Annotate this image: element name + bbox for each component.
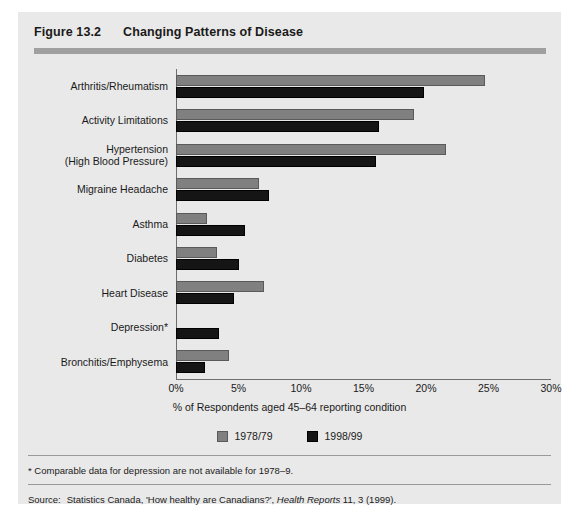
bar-group: [176, 178, 551, 201]
legend-label: 1978/79: [235, 430, 273, 442]
figure-panel: Figure 13.2Changing Patterns of Disease …: [18, 12, 561, 504]
source-label: Source:: [28, 494, 61, 505]
source-journal: Health Reports: [277, 494, 340, 505]
category-label-line: Activity Limitations: [82, 114, 168, 127]
figure-title-row: Figure 13.2Changing Patterns of Disease: [34, 22, 534, 42]
x-tick-label: 0%: [168, 382, 183, 394]
x-axis-tick-labels: 0%5%10%15%20%25%30%: [176, 382, 551, 398]
category-label: Asthma: [132, 218, 168, 231]
bar-1978-79-asthma: [176, 213, 207, 224]
bar-1998-99-depression: [176, 328, 219, 339]
legend-item: 1978/79: [217, 430, 273, 442]
category-label: Activity Limitations: [82, 114, 168, 127]
category-label-line: Hypertension: [65, 143, 168, 156]
source-text: Source:Statistics Canada, 'How healthy a…: [28, 494, 551, 505]
category-label-line: Arthritis/Rheumatism: [71, 80, 168, 93]
bar-1978-79-hypertension: [176, 144, 446, 155]
bar-group: [176, 350, 551, 373]
bar-1998-99-hypertension: [176, 156, 376, 167]
category-label: Depression*: [111, 321, 168, 334]
bar-1998-99-asthma: [176, 225, 245, 236]
footnote-divider: [28, 455, 551, 456]
x-tick-label: 20%: [415, 382, 436, 394]
source-divider: [28, 484, 551, 485]
bar-group: [176, 281, 551, 304]
source-after: 11, 3 (1999).: [340, 494, 396, 505]
figure-number: Figure 13.2: [34, 25, 101, 39]
bar-1998-99-bronchitis-emphysema: [176, 362, 205, 373]
bar-1978-79-bronchitis-emphysema: [176, 350, 229, 361]
category-label: Migraine Headache: [77, 183, 168, 196]
chart-legend: 1978/791998/99: [18, 430, 561, 442]
bar-group: [176, 144, 551, 167]
bar-1978-79-heart-disease: [176, 281, 264, 292]
bar-1998-99-arthritis-rheumatism: [176, 87, 424, 98]
bar-group: [176, 75, 551, 98]
bar-group: [176, 213, 551, 236]
bar-1998-99-activity-limitations: [176, 121, 379, 132]
bar-1978-79-migraine-headache: [176, 178, 259, 189]
category-label-line: Asthma: [132, 218, 168, 231]
category-label-line: Depression*: [111, 321, 168, 334]
x-axis-line: [176, 379, 551, 380]
bar-1978-79-activity-limitations: [176, 109, 414, 120]
bar-1998-99-diabetes: [176, 259, 239, 270]
x-axis-title: % of Respondents aged 45–64 reporting co…: [18, 401, 561, 413]
x-tick-label: 15%: [353, 382, 374, 394]
x-tick-label: 25%: [478, 382, 499, 394]
category-label: Hypertension(High Blood Pressure): [65, 143, 168, 168]
page-title: Changing Patterns of Disease: [123, 25, 303, 39]
bar-1998-99-migraine-headache: [176, 190, 269, 201]
bar-1978-79-arthritis-rheumatism: [176, 75, 485, 86]
bar-group: [176, 109, 551, 132]
x-tick-label: 5%: [231, 382, 246, 394]
bar-1978-79-diabetes: [176, 247, 217, 258]
legend-swatch-icon: [307, 431, 318, 442]
bar-1998-99-heart-disease: [176, 293, 234, 304]
category-label: Diabetes: [127, 252, 168, 265]
category-label: Heart Disease: [101, 287, 168, 300]
footnote-text: * Comparable data for depression are not…: [28, 465, 548, 476]
category-label: Arthritis/Rheumatism: [71, 80, 168, 93]
title-divider: [34, 48, 546, 54]
category-label-line: (High Blood Pressure): [65, 155, 168, 168]
legend-swatch-icon: [217, 431, 228, 442]
bar-group: [176, 247, 551, 270]
category-label-line: Migraine Headache: [77, 183, 168, 196]
category-label-line: Bronchitis/Emphysema: [61, 356, 168, 369]
category-label-line: Diabetes: [127, 252, 168, 265]
category-axis-labels: Arthritis/RheumatismActivity Limitations…: [18, 69, 168, 379]
x-tick-label: 30%: [540, 382, 561, 394]
category-label-line: Heart Disease: [101, 287, 168, 300]
legend-item: 1998/99: [307, 430, 363, 442]
legend-label: 1998/99: [325, 430, 363, 442]
chart-plot-area: [176, 69, 551, 379]
x-tick-label: 10%: [290, 382, 311, 394]
category-label: Bronchitis/Emphysema: [61, 356, 168, 369]
source-before: Statistics Canada, 'How healthy are Cana…: [67, 494, 277, 505]
bar-group: [176, 316, 551, 339]
